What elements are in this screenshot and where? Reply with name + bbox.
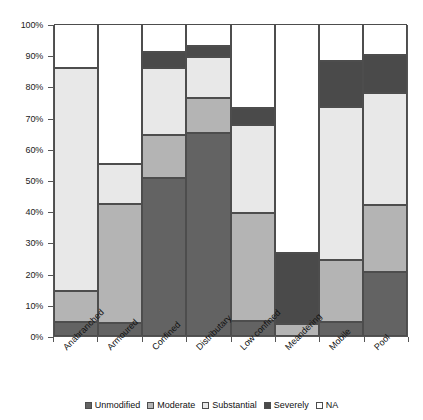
bar-segment-moderate[interactable] [231,213,275,321]
bar-segment-na[interactable] [142,24,186,52]
y-tick-label: 80% [26,83,43,92]
legend-swatch-icon [85,402,92,409]
y-tick-label: 0% [30,333,43,342]
bars-layer [54,26,407,336]
legend-label: NA [326,400,339,410]
bar-segment-unmodified[interactable] [363,272,407,336]
x-tick-mark [408,337,409,342]
bar-segment-na[interactable] [231,24,275,108]
bar-segment-moderate[interactable] [319,260,363,322]
bar-segment-substantial[interactable] [98,164,142,204]
legend-item-moderate[interactable]: Moderate [147,400,195,410]
legend-label: Moderate [157,400,195,410]
legend-label: Substantial [212,400,257,410]
y-tick-label: 40% [26,208,43,217]
y-tick-label: 30% [26,239,43,248]
bar-segment-substantial[interactable] [363,93,407,205]
legend-swatch-icon [316,402,323,409]
bar-column[interactable] [363,26,407,336]
legend-label: Severely [274,400,309,410]
bar-segment-substantial[interactable] [231,125,275,212]
bar-segment-na[interactable] [275,24,319,253]
bar-segment-moderate[interactable] [142,135,186,178]
x-tick-mark [53,337,54,342]
plot-area [53,25,408,337]
x-tick-mark [97,337,98,342]
y-tick-label: 90% [26,52,43,61]
x-tick-mark [319,337,320,342]
bar-segment-substantial[interactable] [186,57,230,98]
x-tick-mark [364,337,365,342]
bar-segment-na[interactable] [54,24,98,68]
x-tick-mark [231,337,232,342]
bar-segment-na[interactable] [186,24,230,46]
x-tick-mark [186,337,187,342]
bar-column[interactable] [231,26,275,336]
legend-swatch-icon [202,402,209,409]
bar-segment-substantial[interactable] [142,68,186,136]
stacked-bar-chart: 0%10%20%30%40%50%60%70%80%90%100% Anabra… [0,0,423,420]
y-tick-label: 60% [26,145,43,154]
bar-segment-na[interactable] [363,24,407,55]
legend-item-severely[interactable]: Severely [264,400,309,410]
bar-segment-severely[interactable] [319,61,363,106]
bar-column[interactable] [275,26,319,336]
bar-column[interactable] [98,26,142,336]
chart-legend: UnmodifiedModerateSubstantialSeverelyNA [0,400,423,410]
bar-column[interactable] [319,26,363,336]
bar-segment-substantial[interactable] [319,107,363,260]
y-tick-label: 70% [26,114,43,123]
legend-item-substantial[interactable]: Substantial [202,400,257,410]
bar-segment-moderate[interactable] [363,205,407,272]
bar-column[interactable] [186,26,230,336]
legend-item-na[interactable]: NA [316,400,339,410]
bar-segment-substantial[interactable] [54,68,98,291]
bar-column[interactable] [142,26,186,336]
bar-column[interactable] [54,26,98,336]
bar-segment-severely[interactable] [363,55,407,92]
bar-segment-moderate[interactable] [98,204,142,322]
legend-swatch-icon [264,402,271,409]
bar-segment-unmodified[interactable] [186,133,230,336]
legend-item-unmodified[interactable]: Unmodified [85,400,141,410]
legend-swatch-icon [147,402,154,409]
y-tick-label: 50% [26,177,43,186]
bar-segment-na[interactable] [319,24,363,61]
y-tick-label: 100% [21,21,43,30]
bar-segment-unmodified[interactable] [142,178,186,336]
bar-segment-severely[interactable] [231,108,275,125]
bar-segment-na[interactable] [98,24,142,164]
bar-segment-severely[interactable] [142,52,186,68]
y-tick-label: 10% [26,301,43,310]
y-axis: 0%10%20%30%40%50%60%70%80%90%100% [0,0,53,420]
bar-segment-moderate[interactable] [186,98,230,133]
x-tick-mark [275,337,276,342]
x-tick-mark [142,337,143,342]
y-tick-label: 20% [26,270,43,279]
bar-segment-severely[interactable] [186,46,230,57]
legend-label: Unmodified [95,400,141,410]
